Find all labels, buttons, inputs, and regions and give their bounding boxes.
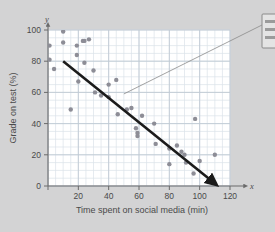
data-point <box>191 171 195 175</box>
data-point <box>52 67 56 71</box>
data-point <box>61 40 65 44</box>
svg-text:20: 20 <box>32 150 42 160</box>
data-point <box>129 106 133 110</box>
svg-text:0: 0 <box>36 181 41 191</box>
data-point <box>153 142 157 146</box>
data-point <box>75 53 79 57</box>
chart-figure: 020406080100 20406080100120 y x Time spe… <box>0 0 275 232</box>
data-point <box>82 61 86 65</box>
data-point <box>197 159 201 163</box>
svg-text:60: 60 <box>32 87 42 97</box>
scatter-plot-svg: 020406080100 20406080100120 y x Time spe… <box>0 0 275 232</box>
data-point <box>61 29 65 33</box>
data-point <box>134 126 138 130</box>
x-axis-letter: x <box>249 181 254 191</box>
svg-text:60: 60 <box>134 191 144 201</box>
svg-text:100: 100 <box>193 191 207 201</box>
svg-text:80: 80 <box>165 191 175 201</box>
data-point <box>213 153 217 157</box>
svg-text:120: 120 <box>223 191 237 201</box>
x-axis-title: Time spent on social media (min) <box>76 205 208 215</box>
data-point <box>193 117 197 121</box>
data-point <box>91 68 95 72</box>
data-point <box>82 39 86 43</box>
svg-text:40: 40 <box>32 119 42 129</box>
data-point <box>140 114 144 118</box>
svg-text:80: 80 <box>32 56 42 66</box>
data-point <box>116 112 120 116</box>
svg-text:100: 100 <box>27 25 41 35</box>
data-point <box>75 43 79 47</box>
data-point <box>87 37 91 41</box>
svg-text:20: 20 <box>74 191 84 201</box>
data-point <box>93 90 97 94</box>
data-point <box>152 121 156 125</box>
y-axis-title: Grade on test (%) <box>8 72 18 143</box>
data-point <box>76 79 80 83</box>
data-point <box>167 162 171 166</box>
data-point <box>135 134 139 138</box>
data-point <box>106 82 110 86</box>
svg-text:40: 40 <box>104 191 114 201</box>
y-axis-letter: y <box>44 14 49 24</box>
data-point <box>114 78 118 82</box>
data-point <box>69 107 73 111</box>
data-point <box>175 143 179 147</box>
